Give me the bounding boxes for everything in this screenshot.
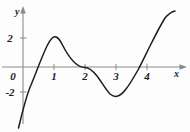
y-axis-label: y [14,6,20,17]
y-axis-arrow-icon [20,6,26,14]
cubic-curve [19,11,176,128]
x-tick-label-2: 2 [81,70,88,82]
y-tick-label-neg2: -2 [5,86,15,98]
y-tick-label-2: 2 [6,32,13,44]
x-axis [2,64,187,70]
origin-label: 0 [10,70,16,82]
cubic-function-plot: y x 2 -2 0 1 2 3 4 [0,0,190,132]
x-axis-label: x [173,68,179,79]
graph-figure: y x 2 -2 0 1 2 3 4 [0,0,190,132]
x-tick-label-4: 4 [143,70,150,82]
x-axis-arrow-icon [180,64,188,70]
x-tick-label-3: 3 [112,70,119,82]
x-tick-label-1: 1 [51,70,57,82]
